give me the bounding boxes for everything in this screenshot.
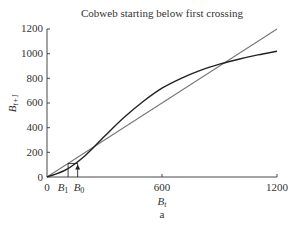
cobweb <box>68 163 80 177</box>
y-tick-1200: 1200 <box>21 22 44 34</box>
x-tick-0: 0 <box>44 181 50 193</box>
y-axis-label: Bt+1 <box>6 94 20 112</box>
b0-label: B0 <box>74 181 85 195</box>
y-tick-600: 600 <box>27 96 44 108</box>
x-axis-label: Bt <box>158 195 168 209</box>
recruitment-curve <box>47 51 277 177</box>
y-tick-1000: 1000 <box>21 47 44 59</box>
y-tick-0: 0 <box>38 171 44 183</box>
x-tick-1200: 1200 <box>266 181 289 193</box>
chart: Cobweb starting below first crossing 120… <box>0 0 299 238</box>
y-tick-400: 400 <box>27 121 44 133</box>
b1-label: B1 <box>58 181 69 195</box>
arrow-up-icon <box>75 164 80 169</box>
x-tick-labels: 0 600 1200 B1 B0 <box>44 181 288 195</box>
y-tick-200: 200 <box>27 146 44 158</box>
chart-title: Cobweb starting below first crossing <box>81 7 243 19</box>
y-tick-800: 800 <box>27 72 44 84</box>
figure-caption: a <box>160 208 165 220</box>
x-tick-600: 600 <box>154 181 171 193</box>
y-tick-labels: 1200 1000 800 600 400 200 0 <box>21 22 44 183</box>
replacement-line <box>47 29 277 177</box>
